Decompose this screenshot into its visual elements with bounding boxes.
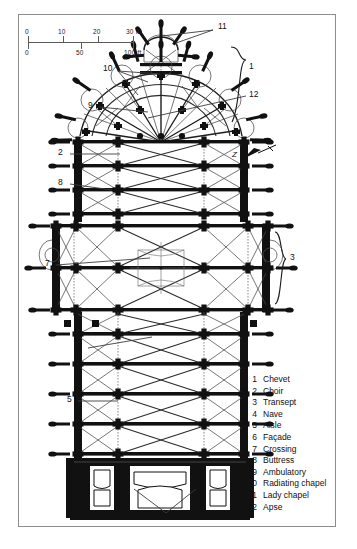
legend-number: 7 xyxy=(243,444,257,454)
callout-4: 4 xyxy=(77,342,82,351)
legend-label: Crossing xyxy=(263,444,297,454)
legend-number: 2 xyxy=(243,386,257,396)
legend-label: Chevet xyxy=(263,374,290,384)
legend-label: Lady chapel xyxy=(263,490,309,500)
legend-number: 6 xyxy=(243,432,257,442)
callout-6: 6 xyxy=(162,512,167,521)
legend-item-8: 8 Buttress xyxy=(243,455,331,465)
legend-item-6: 6 Façade xyxy=(243,432,331,442)
legend-number: 5 xyxy=(243,420,257,430)
legend-label: Buttress xyxy=(263,455,294,465)
callout-1: 1 xyxy=(249,62,254,71)
callout-5: 5 xyxy=(67,395,72,404)
legend-label: Apse xyxy=(263,502,282,512)
legend-item-12: 12 Apse xyxy=(243,502,331,512)
callout-11: 11 xyxy=(218,22,227,31)
legend-item-9: 9 Ambulatory xyxy=(243,467,331,477)
legend-number: 9 xyxy=(243,467,257,477)
legend-item-4: 4 Nave xyxy=(243,409,331,419)
legend-label: Façade xyxy=(263,432,291,442)
legend-item-2: 2 Choir xyxy=(243,386,331,396)
brace-transept xyxy=(275,232,286,304)
legend-label: Transept xyxy=(263,397,296,407)
legend: 1 Chevet 2 Choir 3 Transept 4 Nave 5 Ais… xyxy=(243,374,331,513)
callout-2: 2 xyxy=(58,148,63,157)
legend-item-3: 3 Transept xyxy=(243,397,331,407)
cathedral-plan-figure: .wall { fill:#111; } .vault { stroke:#4a… xyxy=(0,0,357,549)
callout-7: 7 xyxy=(45,259,50,268)
legend-label: Nave xyxy=(263,409,283,419)
legend-item-10: 10 Radiating chapel xyxy=(243,478,331,488)
legend-number: 10 xyxy=(243,478,257,488)
legend-item-1: 1 Chevet xyxy=(243,374,331,384)
callout-9: 9 xyxy=(88,101,93,110)
callout-8: 8 xyxy=(58,178,63,187)
legend-label: Aisle xyxy=(263,420,281,430)
legend-label: Choir xyxy=(263,386,283,396)
legend-number: 12 xyxy=(243,502,257,512)
legend-number: 3 xyxy=(243,397,257,407)
legend-item-11: 11 Lady chapel xyxy=(243,490,331,500)
brace-chevet xyxy=(231,47,246,122)
legend-number: 11 xyxy=(243,490,257,500)
callout-12: 12 xyxy=(249,90,258,99)
legend-label: Ambulatory xyxy=(263,467,306,477)
legend-item-7: 7 Crossing xyxy=(243,444,331,454)
legend-number: 4 xyxy=(243,409,257,419)
legend-number: 1 xyxy=(243,374,257,384)
callout-10: 10 xyxy=(103,64,112,73)
legend-number: 8 xyxy=(243,455,257,465)
legend-item-5: 5 Aisle xyxy=(243,420,331,430)
callout-3: 3 xyxy=(290,253,295,262)
legend-label: Radiating chapel xyxy=(263,478,326,488)
